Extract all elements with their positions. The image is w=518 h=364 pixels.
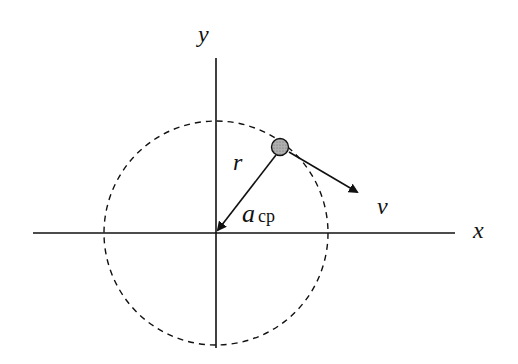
radius-label: r bbox=[233, 149, 243, 175]
acceleration-label: a bbox=[242, 199, 255, 228]
diagram-canvas: y x r a cp v bbox=[0, 0, 518, 364]
velocity-label: v bbox=[377, 193, 388, 219]
acceleration-subscript: cp bbox=[258, 206, 275, 226]
x-axis-label: x bbox=[472, 217, 484, 243]
circular-motion-diagram: y x r a cp v bbox=[0, 0, 518, 364]
particle bbox=[272, 139, 289, 156]
velocity-arrow bbox=[289, 152, 357, 192]
y-axis-label: y bbox=[196, 21, 209, 47]
